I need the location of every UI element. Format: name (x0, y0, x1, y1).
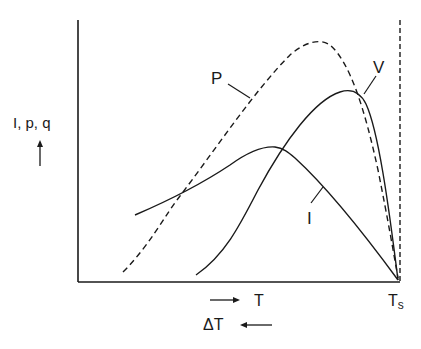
diagram-canvas: P V I I, p, q T Ts ΔT (0, 0, 421, 349)
curve-v (196, 91, 398, 281)
label-p: P (211, 69, 222, 88)
ts-label: Ts (388, 292, 404, 312)
delta-t-label: ΔT (203, 316, 224, 333)
curve-i (135, 147, 398, 280)
x-axis-label: T (254, 292, 264, 309)
leader-p (228, 84, 250, 98)
y-axis-label: I, p, q (13, 114, 51, 131)
label-v: V (373, 58, 385, 77)
leader-i (311, 187, 323, 203)
label-i: I (307, 209, 312, 228)
right-arrowhead-icon (233, 297, 240, 303)
left-arrowhead-icon (240, 322, 247, 328)
leader-v (364, 76, 376, 94)
curve-p (123, 42, 398, 278)
up-arrowhead-icon (37, 140, 43, 147)
